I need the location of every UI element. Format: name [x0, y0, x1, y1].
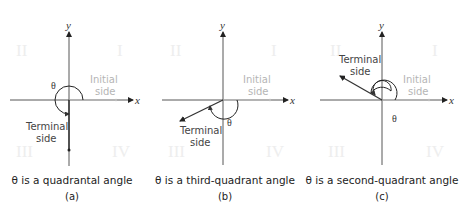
initial-side-label-2: side [408, 86, 429, 97]
initial-side-label-2: side [95, 86, 116, 97]
quadrant-III-label: III [16, 142, 33, 161]
terminal-side-label: Terminal [25, 121, 68, 132]
quadrant-III-label: III [328, 142, 345, 161]
y-axis-label: y [219, 19, 225, 31]
x-axis-label: x [289, 94, 295, 106]
sublabel: (a) [65, 191, 79, 202]
quadrant-IV-label: IV [112, 142, 131, 161]
caption: θ is a third-quadrant angle [155, 174, 295, 186]
angle-arc [210, 100, 238, 119]
terminal-side-endpoint [68, 149, 71, 152]
terminal-side-label-2: side [350, 66, 371, 77]
sublabel: (c) [375, 191, 388, 202]
x-axis-label: x [134, 94, 140, 106]
angle-arc-outer-loop [371, 87, 391, 93]
panel-c: II I III IV x y θ Initial side Terminal … [306, 19, 459, 202]
y-axis-label: y [378, 19, 384, 31]
theta-label: θ [51, 80, 56, 91]
quadrant-II-label: II [16, 41, 28, 60]
quadrant-I-label: I [271, 41, 277, 60]
caption: θ is a second-quadrant angle [306, 174, 459, 186]
terminal-side-label: Terminal [179, 125, 222, 136]
initial-side-endpoint [428, 99, 430, 101]
initial-side-label: Initial [90, 74, 118, 85]
quadrant-II-label: II [170, 41, 182, 60]
initial-side-endpoint [115, 99, 117, 101]
theta-label: θ [227, 117, 232, 128]
terminal-side-label: Terminal [338, 54, 381, 65]
sublabel: (b) [218, 191, 232, 202]
initial-side-endpoint [269, 99, 271, 101]
quadrant-IV-label: IV [426, 142, 445, 161]
theta-label: θ [392, 113, 397, 124]
terminal-side-ray [340, 76, 382, 100]
panel-b: II I III IV x y θ Initial side Terminal … [155, 19, 295, 202]
quadrant-I-label: I [117, 41, 123, 60]
angle-diagrams: II I III IV x y θ Initial side Terminal … [0, 0, 460, 212]
quadrant-III-label: III [168, 142, 185, 161]
terminal-side-label-2: side [36, 133, 57, 144]
x-axis-label: x [448, 94, 454, 106]
quadrant-I-label: I [432, 41, 438, 60]
panel-a: II I III IV x y θ Initial side Terminal … [10, 19, 140, 202]
quadrant-IV-label: IV [266, 142, 285, 161]
angle-arc-outer-start [371, 80, 397, 100]
caption: θ is a quadrantal angle [11, 174, 132, 186]
y-axis-label: y [65, 19, 71, 31]
terminal-side-ray [180, 100, 223, 121]
terminal-side-label-2: side [190, 137, 211, 148]
initial-side-label-2: side [248, 86, 269, 97]
initial-side-label: Initial [403, 74, 431, 85]
initial-side-label: Initial [243, 74, 271, 85]
